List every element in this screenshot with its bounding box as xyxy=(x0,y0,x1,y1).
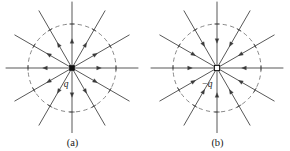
field-line xyxy=(74,71,106,126)
circle-crossing-tick xyxy=(109,88,112,93)
field-arrowhead xyxy=(57,43,61,48)
field-line xyxy=(15,70,70,102)
circle-crossing-tick xyxy=(33,44,36,49)
field-arrowhead xyxy=(47,53,52,57)
field-line xyxy=(74,11,106,66)
field-arrowhead xyxy=(57,88,61,93)
field-arrowhead xyxy=(242,66,247,70)
circle-crossing-tick xyxy=(193,105,198,108)
diagram-group-a: q xyxy=(6,2,138,133)
field-line xyxy=(219,71,251,126)
electric-field-figure: q (a) −q (b) xyxy=(0,0,290,151)
circle-crossing-tick xyxy=(48,29,53,32)
circle-crossing-tick xyxy=(254,88,257,93)
circle-crossing-tick xyxy=(193,29,198,32)
circle-crossing-tick xyxy=(178,88,181,93)
field-line xyxy=(160,35,215,67)
field-arrowhead xyxy=(83,43,87,48)
field-line xyxy=(39,11,71,66)
charge-label: −q xyxy=(201,79,212,89)
field-line xyxy=(220,35,275,67)
field-arrowhead xyxy=(70,39,74,44)
caption-b: (b) xyxy=(145,137,290,149)
caption-a: (a) xyxy=(0,137,145,149)
field-diagram-a: q xyxy=(0,0,145,133)
circle-crossing-tick xyxy=(33,88,36,93)
field-arrowhead xyxy=(191,52,196,56)
circle-crossing-tick xyxy=(92,105,97,108)
field-arrowhead xyxy=(215,39,219,44)
point-charge-marker-positive xyxy=(69,65,74,70)
field-line xyxy=(220,70,275,102)
circle-crossing-tick xyxy=(254,44,257,49)
field-arrowhead xyxy=(201,89,205,94)
field-arrowhead xyxy=(83,88,87,93)
field-arrowhead xyxy=(238,52,243,56)
point-charge-marker-negative xyxy=(214,65,219,70)
field-line xyxy=(75,35,130,67)
field-arrowhead xyxy=(229,42,233,47)
circle-crossing-tick xyxy=(109,44,112,49)
panel-b: −q (b) xyxy=(145,0,290,151)
field-arrowhead xyxy=(188,66,193,70)
field-arrowhead xyxy=(92,53,97,57)
circle-crossing-tick xyxy=(237,29,242,32)
panel-a: q (a) xyxy=(0,0,145,151)
field-line xyxy=(15,35,70,67)
field-arrowhead xyxy=(43,66,48,70)
charge-label: q xyxy=(64,79,69,89)
field-arrowhead xyxy=(92,79,97,83)
field-line xyxy=(184,11,216,66)
field-arrowhead xyxy=(97,66,102,70)
field-arrowhead xyxy=(215,93,219,98)
field-arrowhead xyxy=(229,89,233,94)
circle-crossing-tick xyxy=(178,44,181,49)
field-arrowhead xyxy=(201,42,205,47)
circle-crossing-tick xyxy=(48,105,53,108)
field-arrowhead xyxy=(238,80,243,84)
diagram-group-b: −q xyxy=(151,2,283,133)
circle-crossing-tick xyxy=(237,105,242,108)
field-line xyxy=(75,70,130,102)
field-line xyxy=(219,11,251,66)
field-arrowhead xyxy=(70,93,74,98)
field-arrowhead xyxy=(47,79,52,83)
circle-crossing-tick xyxy=(92,29,97,32)
field-diagram-b: −q xyxy=(145,0,290,133)
field-arrowhead xyxy=(191,80,196,84)
